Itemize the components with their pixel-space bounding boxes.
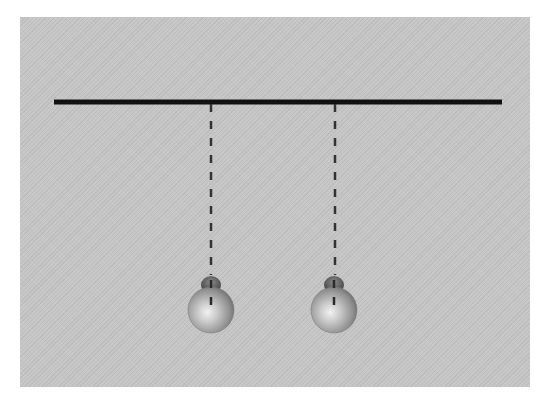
pendulum-left — [188, 104, 234, 333]
pendulum-diagram — [0, 0, 551, 401]
bob-right — [311, 287, 357, 333]
pendulum-right — [311, 104, 357, 333]
bob-left — [188, 287, 234, 333]
